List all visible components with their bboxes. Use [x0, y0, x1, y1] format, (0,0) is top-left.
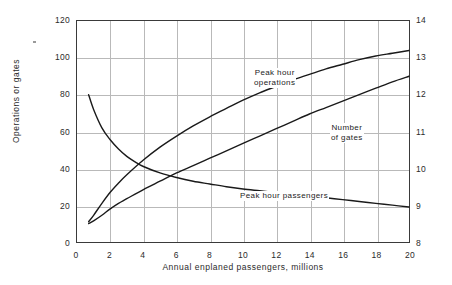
tick-label-right-13: 13 — [416, 52, 440, 62]
tick-label-left-100: 100 — [40, 52, 70, 62]
tick-label-right-8: 8 — [416, 238, 440, 248]
tick-label-bottom-2: 2 — [97, 250, 121, 260]
annotation-peak-hour-operations: Peak hour operations — [253, 68, 296, 88]
tick-label-right-10: 10 — [416, 164, 440, 174]
chart-figure: 020406080100120 891011121314 02468101214… — [0, 0, 452, 285]
tick-label-left-80: 80 — [40, 89, 70, 99]
left-axis-title: Operations or gates — [11, 41, 21, 161]
tick-label-bottom-20: 20 — [398, 250, 422, 260]
tick-label-bottom-8: 8 — [198, 250, 222, 260]
annotation-line-1: Number — [331, 123, 363, 133]
annotation-line-2: of gates — [331, 133, 363, 143]
annotation-number-of-gates: Number of gates — [330, 123, 364, 143]
tick-label-left-20: 20 — [40, 201, 70, 211]
annotation-line-2: operations — [254, 78, 295, 88]
annotation-line-1: Peak hour — [254, 68, 295, 78]
stray-speck — [33, 41, 36, 43]
tick-label-left-60: 60 — [40, 127, 70, 137]
tick-label-right-11: 11 — [416, 127, 440, 137]
tick-label-right-14: 14 — [416, 15, 440, 25]
tick-label-bottom-6: 6 — [164, 250, 188, 260]
tick-label-right-9: 9 — [416, 201, 440, 211]
annotation-line-1: Peak hour passengers — [240, 191, 328, 201]
tick-label-bottom-4: 4 — [131, 250, 155, 260]
tick-label-left-40: 40 — [40, 164, 70, 174]
tick-label-bottom-18: 18 — [365, 250, 389, 260]
tick-label-bottom-10: 10 — [231, 250, 255, 260]
tick-label-left-120: 120 — [40, 15, 70, 25]
x-axis-title: Annual enplaned passengers, millions — [76, 262, 410, 272]
tick-label-bottom-16: 16 — [331, 250, 355, 260]
tick-label-bottom-14: 14 — [298, 250, 322, 260]
annotation-peak-hour-passengers: Peak hour passengers — [239, 191, 329, 201]
tick-label-bottom-12: 12 — [264, 250, 288, 260]
tick-label-bottom-0: 0 — [64, 250, 88, 260]
tick-label-left-0: 0 — [40, 238, 70, 248]
tick-label-right-12: 12 — [416, 89, 440, 99]
